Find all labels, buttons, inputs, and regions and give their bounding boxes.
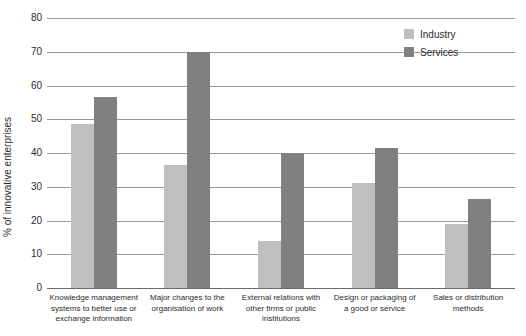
x-axis-category-label: Design or packaging ofa good or service <box>328 293 422 314</box>
x-axis-category-label-line: Knowledge management <box>47 293 141 304</box>
y-axis-tick-label: 0 <box>36 283 42 293</box>
y-axis-tick-label: 20 <box>31 216 42 226</box>
bar-industry <box>71 124 94 288</box>
x-axis-category-label-line: systems to better use or <box>47 304 141 315</box>
x-axis-category-label-line: other firms or public <box>234 304 328 315</box>
x-axis-category-label-line: Sales or distribution <box>421 293 515 304</box>
legend-swatch-industry <box>404 29 414 39</box>
bar-services <box>281 153 304 288</box>
bar-group <box>352 18 398 288</box>
legend-item-industry: Industry <box>404 26 458 42</box>
y-axis-tick-label: 50 <box>31 114 42 124</box>
bar-services <box>375 148 398 288</box>
axis-baseline: 0 <box>47 288 515 289</box>
bar-services <box>468 199 491 288</box>
bar-group <box>258 18 304 288</box>
y-axis-tick-label: 30 <box>31 182 42 192</box>
x-axis-category-label-line: Design or packaging of <box>328 293 422 304</box>
x-axis-category-label: Major changes to theorganisation of work <box>141 293 235 314</box>
y-axis-tick-label: 40 <box>31 148 42 158</box>
x-axis-category-label: Knowledge managementsystems to better us… <box>47 293 141 325</box>
bar-industry <box>352 183 375 288</box>
x-axis-category-label-line: Major changes to the <box>141 293 235 304</box>
y-axis-title: % of innovative enterprises <box>2 92 16 262</box>
legend-swatch-services <box>404 47 414 57</box>
bar-chart: % of innovative enterprises 807060504030… <box>0 0 526 336</box>
y-axis-tick-label: 60 <box>31 81 42 91</box>
bar-services <box>94 97 117 288</box>
x-axis-category-label: Sales or distributionmethods <box>421 293 515 314</box>
bar-industry <box>164 165 187 288</box>
x-axis-category-label-line: a good or service <box>328 304 422 315</box>
y-axis-tick-label: 80 <box>31 13 42 23</box>
x-axis-category-label-line: organisation of work <box>141 304 235 315</box>
y-axis-tick-label: 10 <box>31 249 42 259</box>
legend-label-services: Services <box>420 47 458 58</box>
x-axis-category-label-line: exchange information <box>47 314 141 325</box>
x-axis-category-label-line: External relations with <box>234 293 328 304</box>
bar-group <box>71 18 117 288</box>
x-axis-category-label-line: methods <box>421 304 515 315</box>
x-axis-category-label-line: institutions <box>234 314 328 325</box>
x-axis-category-label: External relations withother firms or pu… <box>234 293 328 325</box>
bar-industry <box>445 224 468 288</box>
bar-services <box>187 52 210 288</box>
legend-item-services: Services <box>404 44 458 60</box>
y-axis-tick-label: 70 <box>31 47 42 57</box>
legend: Industry Services <box>404 26 458 62</box>
legend-label-industry: Industry <box>420 29 456 40</box>
x-axis-category-labels: Knowledge managementsystems to better us… <box>47 293 515 336</box>
bar-industry <box>258 241 281 288</box>
bar-group <box>164 18 210 288</box>
